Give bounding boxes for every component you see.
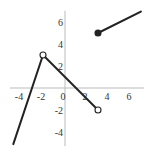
x-tick-label: -2 [37,91,45,102]
function-segments [13,12,141,145]
y-tick-label: 4 [58,39,63,50]
endpoint-markers [40,30,101,113]
axes [10,11,144,146]
open-point-marker [95,107,101,113]
y-tick-label: 6 [58,17,63,28]
closed-point-marker [95,30,101,36]
x-tick-label: 4 [105,91,110,102]
tick-labels: -4-20246-4-2246 [15,17,132,138]
piecewise-function-graph: -4-20246-4-2246 [0,0,163,158]
segment-piece-3 [98,12,141,33]
x-tick-label: -4 [15,91,23,102]
x-tick-label: 6 [127,91,132,102]
open-point-marker [40,52,46,58]
x-tick-label: 0 [61,91,66,102]
y-tick-label: -4 [55,127,63,138]
segment-piece-2 [43,55,98,110]
y-tick-label: -2 [55,105,63,116]
